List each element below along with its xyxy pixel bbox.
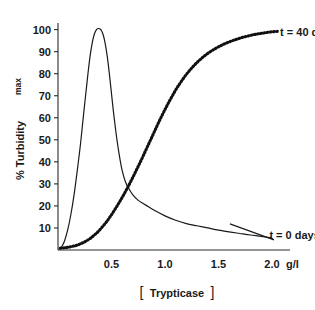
axis-ticks xyxy=(54,30,58,228)
chart-plot-area: 0.51.01.52.0g/l 102030405060708090100 t … xyxy=(0,0,315,310)
y-tick-label: 40 xyxy=(39,156,51,168)
x-tick-labels: 0.51.01.52.0g/l xyxy=(104,258,299,270)
y-tick-label: 20 xyxy=(39,200,51,212)
y-tick-label: 50 xyxy=(39,134,51,146)
series-labels: t = 0 dayst = 40 days xyxy=(230,26,315,241)
x-tick-label: 0.5 xyxy=(104,258,119,270)
series-curve-2 xyxy=(60,31,277,248)
data-series xyxy=(60,29,277,249)
y-axis-title: % Turbiditymax xyxy=(13,78,26,180)
series-label: t = 0 days xyxy=(269,229,315,241)
y-tick-label: 90 xyxy=(39,46,51,58)
series-curve-1 xyxy=(61,29,272,248)
x-axis-unit-label: g/l xyxy=(286,258,299,270)
y-tick-labels: 102030405060708090100 xyxy=(33,24,51,234)
x-tick-label: 1.0 xyxy=(157,258,172,270)
x-axis-title-bracket-left: [ xyxy=(140,284,144,300)
x-axis-title-bracket-right: ] xyxy=(211,284,215,300)
y-tick-label: 10 xyxy=(39,222,51,234)
y-axis-title-main: % Turbidity xyxy=(14,120,26,180)
axes xyxy=(58,23,290,250)
x-axis-title-text: Trypticase xyxy=(150,287,204,299)
y-tick-label: 60 xyxy=(39,112,51,124)
x-tick-label: 1.5 xyxy=(211,258,226,270)
series-label-leader-line xyxy=(230,224,274,240)
y-tick-label: 100 xyxy=(33,24,51,36)
y-axis-title-subscript: max xyxy=(13,78,23,95)
x-tick-label: 2.0 xyxy=(264,258,279,270)
y-tick-label: 80 xyxy=(39,68,51,80)
y-tick-label: 30 xyxy=(39,178,51,190)
series-label: t = 40 days xyxy=(280,26,315,38)
y-tick-label: 70 xyxy=(39,90,51,102)
turbidity-chart: 0.51.01.52.0g/l 102030405060708090100 t … xyxy=(0,0,315,310)
